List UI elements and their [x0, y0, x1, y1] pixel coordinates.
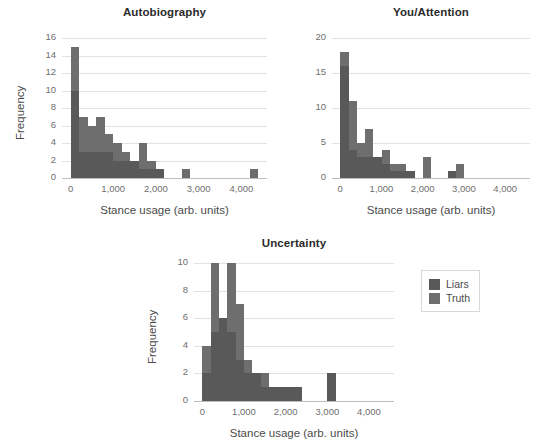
- histogram-bar: [365, 157, 373, 178]
- y-tick-label: 6: [158, 311, 188, 322]
- gridline: [62, 108, 267, 109]
- chart-title: Uncertainty: [194, 237, 394, 249]
- legend-label: Liars: [446, 278, 469, 290]
- histogram-bar: [327, 373, 335, 401]
- histogram-bar: [96, 152, 105, 178]
- histogram-bar: [277, 387, 285, 401]
- legend-swatch-icon: [429, 293, 440, 304]
- y-tick-label: 5: [296, 136, 326, 147]
- chart-legend: LiarsTruth: [421, 270, 480, 312]
- histogram-bar: [211, 332, 219, 401]
- histogram-bar: [294, 387, 302, 401]
- y-tick-label: 16: [26, 31, 56, 42]
- histogram-bar: [113, 161, 122, 179]
- histogram-bar: [105, 152, 114, 178]
- histogram-bar: [88, 152, 97, 178]
- gridline: [194, 263, 394, 264]
- legend-swatch-icon: [429, 279, 440, 290]
- histogram-bar: [227, 332, 235, 401]
- y-tick-label: 4: [158, 339, 188, 350]
- gridline: [62, 73, 267, 74]
- histogram-bar: [202, 373, 210, 401]
- histogram-bar: [71, 91, 80, 179]
- x-axis-label: Stance usage (arb. units): [62, 204, 267, 216]
- histogram-bar: [182, 169, 191, 178]
- y-tick-label: 2: [26, 154, 56, 165]
- x-axis-label: Stance usage (arb. units): [194, 427, 394, 439]
- histogram-bar: [261, 387, 269, 401]
- y-tick-label: 2: [158, 366, 188, 377]
- histogram-bar: [423, 157, 431, 178]
- histogram-bar: [382, 164, 390, 178]
- x-axis-line: [194, 401, 394, 402]
- chart-panel-2: You/Attention0510152001,0002,0003,0004,0…: [292, 4, 540, 222]
- x-axis-line: [332, 178, 530, 179]
- y-tick-label: 0: [158, 394, 188, 405]
- x-tick-label: 4,000: [480, 183, 530, 194]
- gridline: [332, 38, 530, 39]
- chart-title: Autobiography: [62, 6, 267, 18]
- gridline: [194, 291, 394, 292]
- histogram-bar: [147, 169, 156, 178]
- y-tick-label: 8: [158, 284, 188, 295]
- y-tick-label: 14: [26, 49, 56, 60]
- histogram-bar: [252, 373, 260, 401]
- y-tick-label: 12: [26, 66, 56, 77]
- y-tick-label: 8: [26, 101, 56, 112]
- x-axis-label: Stance usage (arb. units): [332, 204, 530, 216]
- histogram-bar: [156, 169, 165, 178]
- histogram-bar: [269, 387, 277, 401]
- y-axis-label: Frequency: [14, 86, 26, 140]
- legend-item-liars: Liars: [429, 278, 470, 290]
- histogram-bar: [236, 360, 244, 401]
- gridline: [62, 91, 267, 92]
- y-tick-label: 6: [26, 119, 56, 130]
- histogram-bar: [244, 373, 252, 401]
- plot-area: 0510152001,0002,0003,0004,000: [332, 38, 530, 178]
- gridline: [62, 38, 267, 39]
- y-tick-label: 10: [296, 101, 326, 112]
- legend-label: Truth: [446, 292, 470, 304]
- plot-area: 024681012141601,0002,0003,0004,000: [62, 38, 267, 178]
- histogram-bar: [79, 152, 88, 178]
- histogram-bar: [448, 171, 456, 178]
- histogram-bar: [357, 157, 365, 178]
- histogram-bar: [286, 387, 294, 401]
- y-tick-label: 4: [26, 136, 56, 147]
- histogram-bar: [390, 171, 398, 178]
- histogram-bar: [130, 161, 139, 179]
- x-tick-label: 4,000: [344, 406, 394, 417]
- histogram-bar: [219, 318, 227, 401]
- y-tick-label: 20: [296, 31, 326, 42]
- y-tick-label: 0: [26, 171, 56, 182]
- gridline: [332, 108, 530, 109]
- histogram-bar: [250, 169, 259, 178]
- histogram-bar: [340, 66, 348, 178]
- chart-title: You/Attention: [332, 6, 530, 18]
- y-tick-label: 0: [296, 171, 326, 182]
- histogram-bar: [373, 157, 381, 178]
- chart-panel-3: Uncertainty024681001,0002,0003,0004,000F…: [132, 235, 414, 441]
- histogram-bar: [398, 171, 406, 178]
- y-tick-label: 10: [158, 256, 188, 267]
- chart-panel-1: Autobiography024681012141601,0002,0003,0…: [0, 4, 282, 222]
- gridline: [332, 73, 530, 74]
- gridline: [62, 56, 267, 57]
- histogram-bar: [139, 169, 148, 178]
- plot-area: 024681001,0002,0003,0004,000: [194, 263, 394, 401]
- x-tick-label: 4,000: [216, 183, 266, 194]
- histogram-bar: [456, 164, 464, 178]
- y-tick-label: 10: [26, 84, 56, 95]
- y-tick-label: 15: [296, 66, 326, 77]
- histogram-bar: [122, 161, 131, 179]
- y-axis-label: Frequency: [146, 310, 158, 364]
- legend-item-truth: Truth: [429, 292, 470, 304]
- x-axis-line: [62, 178, 267, 179]
- histogram-bar: [406, 171, 414, 178]
- histogram-bar: [349, 150, 357, 178]
